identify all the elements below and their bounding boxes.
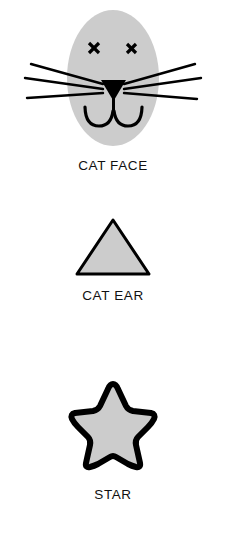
cat-face-label: CAT FACE [0, 158, 226, 173]
figure-cat-ear: CAT EAR [0, 216, 226, 303]
figure-cat-face: CAT FACE [0, 4, 226, 173]
triangle-shape [77, 220, 149, 274]
cat-face-drawing [23, 4, 203, 156]
figure-star: STAR [0, 375, 226, 502]
star-shape [71, 384, 154, 467]
star-drawing [63, 375, 163, 479]
star-label: STAR [0, 487, 226, 502]
cat-ear-drawing [73, 216, 153, 278]
cat-ear-label: CAT EAR [0, 288, 226, 303]
shape-reference-sheet: CAT FACE CAT EAR STAR [0, 0, 226, 535]
